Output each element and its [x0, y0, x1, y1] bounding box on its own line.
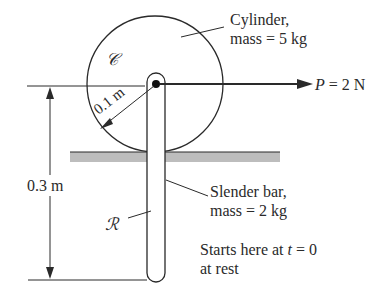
bar-leader — [166, 180, 208, 196]
diagram-canvas — [0, 0, 390, 300]
note-prefix: Starts here at — [200, 241, 288, 258]
note-line-1: Starts here at t = 0 — [200, 240, 317, 259]
bar-length-label: 0.3 m — [27, 176, 63, 195]
slender-bar — [147, 73, 165, 282]
floor — [70, 152, 280, 162]
note-line-2: at rest — [200, 259, 317, 278]
bar-label-name: Slender bar, — [210, 182, 287, 201]
cylinder-symbol: 𝒞 — [106, 50, 118, 69]
force-label: P = 2 N — [315, 75, 365, 94]
force-arrow-head-icon — [297, 79, 313, 89]
force-value: = 2 N — [329, 76, 366, 93]
bar-label-mass: mass = 2 kg — [210, 201, 287, 220]
note-suffix: = 0 — [292, 241, 317, 258]
cylinder-label-mass: mass = 5 kg — [230, 29, 307, 48]
bar-label: Slender bar, mass = 2 kg — [210, 182, 287, 220]
cylinder-label-name: Cylinder, — [230, 10, 307, 29]
force-symbol: P — [315, 76, 325, 93]
initial-condition-note: Starts here at t = 0 at rest — [200, 240, 317, 278]
bar-symbol: ℛ — [105, 215, 119, 234]
dimension-arrow-down-icon — [46, 267, 54, 279]
cylinder-label: Cylinder, mass = 5 kg — [230, 10, 307, 48]
dimension-arrow-up-icon — [46, 87, 54, 99]
